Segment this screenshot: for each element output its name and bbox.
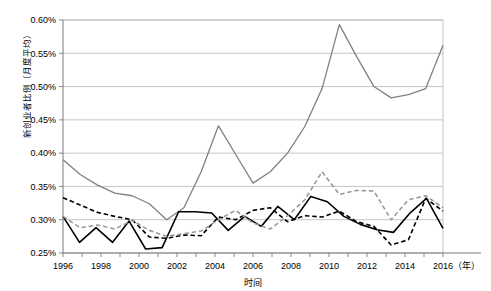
y-axis-tick-label: 0.50% (30, 82, 56, 92)
series-line-gray-dashed (63, 172, 443, 237)
x-axis-tick-label: 2012 (357, 261, 377, 271)
chart-container: 0.25%0.30%0.35%0.40%0.45%0.50%0.55%0.60%… (0, 0, 491, 291)
x-axis-tick-label: 2004 (205, 261, 225, 271)
x-axis-title: 时间 (244, 277, 262, 288)
x-axis-tick-label: 2006 (243, 261, 263, 271)
x-axis-tick-label: 1998 (91, 261, 111, 271)
x-axis-tick-label: 2002 (167, 261, 187, 271)
x-axis-unit-label: （年） (453, 260, 480, 271)
y-axis-tick-label: 0.35% (30, 182, 56, 192)
line-chart-plot: 0.25%0.30%0.35%0.40%0.45%0.50%0.55%0.60%… (0, 0, 491, 291)
y-axis-tick-label: 0.45% (30, 115, 56, 125)
y-axis-tick-label: 0.30% (30, 215, 56, 225)
x-axis-tick-label: 1996 (53, 261, 73, 271)
x-axis-tick-label: 2014 (395, 261, 415, 271)
y-axis-tick-label: 0.55% (30, 49, 56, 59)
y-axis-tick-label: 0.40% (30, 148, 56, 158)
series-line-black-solid (63, 196, 443, 249)
x-axis-tick-label: 2016 (433, 261, 453, 271)
x-axis-tick-label: 2010 (319, 261, 339, 271)
x-axis-tick-label: 2008 (281, 261, 301, 271)
y-axis-title: 新创业者比例（月度平均） (20, 4, 32, 164)
x-axis-tick-label: 2000 (129, 261, 149, 271)
y-axis-tick-label: 0.25% (30, 248, 56, 258)
series-line-gray-solid-upper (63, 25, 443, 220)
y-axis-tick-label: 0.60% (30, 15, 56, 25)
